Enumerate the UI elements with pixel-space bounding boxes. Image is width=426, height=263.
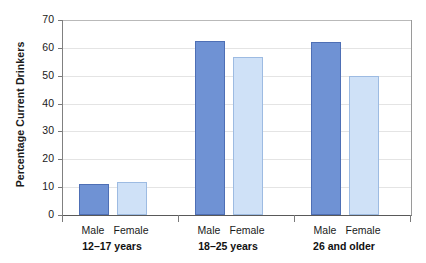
bar-male-2	[195, 41, 225, 215]
y-tick-label-0: 0	[8, 209, 54, 220]
gridline-60	[63, 48, 411, 49]
category-tick-2	[294, 215, 295, 222]
group-label-1: 12–17 years	[52, 240, 172, 253]
group-label-3: 26 and older	[284, 240, 404, 253]
y-tick-label-60: 60	[8, 42, 54, 53]
y-tick-label-70: 70	[8, 14, 54, 25]
bar-female-3	[349, 76, 379, 215]
group-label-2: 18–25 years	[168, 240, 288, 253]
bar-chart-figure: Percentage Current Drinkers 706050403020…	[0, 0, 426, 263]
category-tick-3	[410, 215, 411, 222]
y-tick-label-50: 50	[8, 70, 54, 81]
y-tick-label-10: 10	[8, 181, 54, 192]
bar-male-3	[311, 42, 341, 215]
bar-male-1	[79, 184, 109, 215]
y-tick-label-20: 20	[8, 153, 54, 164]
series-label-female-1: Female	[101, 224, 161, 237]
gridline-70	[63, 20, 411, 21]
bar-female-2	[233, 57, 263, 215]
plot-area	[62, 20, 412, 216]
category-tick-0	[62, 215, 63, 222]
series-label-female-3: Female	[333, 224, 393, 237]
category-tick-1	[178, 215, 179, 222]
bar-female-1	[117, 182, 147, 215]
y-tick-label-30: 30	[8, 125, 54, 136]
series-label-female-2: Female	[217, 224, 277, 237]
y-tick-label-40: 40	[8, 98, 54, 109]
